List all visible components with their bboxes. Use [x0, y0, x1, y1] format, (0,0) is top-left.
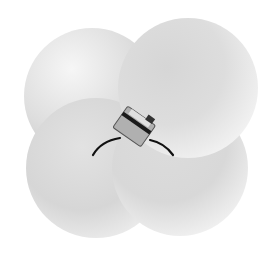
illustration-canvas: [0, 0, 279, 261]
sphere-cluster-illustration: Four overlapping gray spheres arranged i…: [0, 0, 279, 261]
